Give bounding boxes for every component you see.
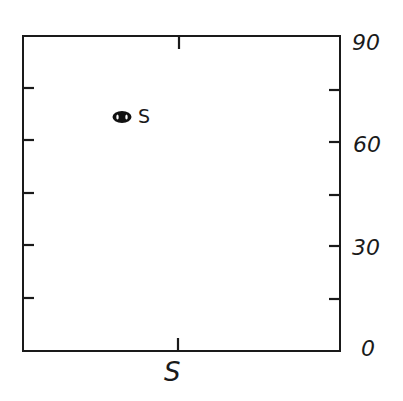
plot-frame bbox=[23, 36, 340, 351]
y-tick-label-60: 60 bbox=[353, 132, 381, 157]
data-point-s: S bbox=[113, 105, 151, 127]
marker-highlight-right bbox=[125, 115, 127, 120]
marker-highlight-left bbox=[116, 115, 118, 120]
y-tick-label-90: 90 bbox=[352, 30, 380, 55]
y-tick-label-30: 30 bbox=[352, 235, 380, 260]
y-tick-label-0: 0 bbox=[361, 336, 375, 361]
scatter-chart: 90 60 30 0 S S bbox=[0, 0, 403, 401]
x-tick-label-s: S bbox=[164, 357, 181, 387]
point-label-s: S bbox=[138, 105, 150, 127]
point-marker-icon bbox=[113, 111, 132, 123]
